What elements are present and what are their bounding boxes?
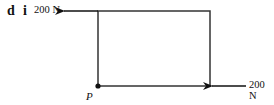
point-p-label: P bbox=[86, 90, 93, 102]
top-force-label: 200 N bbox=[34, 4, 60, 15]
bottom-force-label: 200 N bbox=[249, 79, 274, 101]
couple-diagram bbox=[0, 0, 274, 105]
point-p-dot bbox=[95, 83, 100, 88]
rectangle-body bbox=[98, 11, 210, 86]
question-part-label: d bbox=[7, 3, 15, 19]
question-subpart-label: i bbox=[23, 3, 27, 19]
